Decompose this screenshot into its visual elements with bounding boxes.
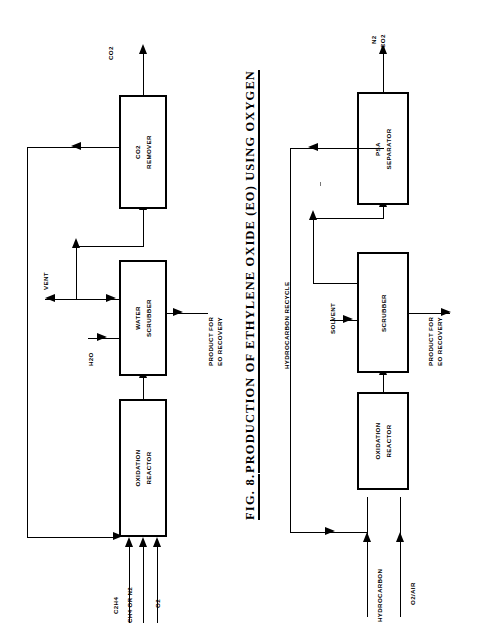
co2-outlet-line [143,52,144,96]
air-recycle-return-arrow [113,532,123,540]
h2o-label: H2O [87,352,95,366]
reactor-to-scrubber-line [143,376,144,400]
figure-title: PRODUCTION OF ETHYLENE OXIDE (EO) USING … [243,70,260,473]
o2-recycle-loop-arrow [308,143,318,151]
figure-number: FIG. 8. [243,474,260,520]
feed-line-o2 [157,545,158,623]
solvent-label: SOLVENT [329,303,337,334]
figure-page: OXIDATION REACTOR C2H4 CH4 OR N2 O2 WATE… [0,0,478,636]
o2-oxidation-reactor-label: OXIDATION REACTOR [372,422,394,459]
scrubber-overhead-riser [313,218,314,284]
scrubber-overhead-crossover [313,218,383,219]
scrubber-overhead-out [313,283,358,284]
o2-recycle-return-arrow [325,527,335,535]
figure-number-caption: FIG. 8. [240,474,258,520]
o2-recycle-label: HYDROCARBON RECYCLE [283,282,291,369]
vent-arrow [45,294,55,302]
feed-label-ch4-n2: CH4 OR N2 [126,587,134,623]
o2-product-arrow [441,308,451,316]
product-label-line1: PRODUCT FOR [427,317,434,366]
unit-label-line1: OXIDATION [134,449,141,486]
air-recycle-return-line [70,537,118,538]
unit-label-line2: REMOVER [145,135,152,169]
unit-label-line1: WATER [134,306,141,330]
feed-line-o2-air [400,497,401,617]
co2-outlet-label: CO2 [107,46,115,60]
feed-arrow-ch4-n2 [139,537,147,547]
feed-arrow-o2-air [396,532,404,542]
scan-artifact [320,182,321,186]
feed-label-c2h4: C2H4 [112,597,120,614]
air-recycle-loop-arrow [71,142,81,150]
psa-inlet-line [383,205,384,219]
feed-line-ch4-n2 [143,545,144,623]
co2-outlet-arrow [139,44,147,54]
feed-arrow-o2 [153,537,161,547]
product-label-line2: EO RECOVERY [216,317,223,366]
unit-label-line2: REACTOR [145,452,152,485]
feed-label-o2: O2 [154,599,162,608]
product-label-line1: PRODUCT FOR [207,317,214,366]
o2-scrubber-label: SCRUBBER [378,294,389,332]
psa-vent-line [383,52,384,93]
feed-label-hydrocarbon: HYDROCARBON [376,569,384,622]
feed-arrow-c2h4 [125,537,133,547]
co2-remover-box: CO2 REMOVER [119,95,167,209]
vent-label: VENT [42,272,50,290]
feed-arrow-hydrocarbon [363,532,371,542]
solvent-feed-arrow [343,315,353,323]
scrubber-overhead-arrow [106,294,116,302]
air-oxidation-reactor-box: OXIDATION REACTOR [119,399,167,537]
unit-label-line2: SCRUBBER [145,299,152,337]
unit-label-line2: SEPARATOR [385,128,392,169]
air-product-label: PRODUCT FOR EO RECOVERY [207,317,224,366]
air-recycle-loop-vertical [27,147,28,538]
co2-remover-label: CO2 REMOVER [132,135,154,169]
unit-label-line2: SCRUBBER [380,294,387,332]
o2-scrubber-box: SCRUBBER [357,252,409,373]
product-label-line2: EO RECOVERY [436,317,443,366]
air-oxidation-reactor-label: OXIDATION REACTOR [132,449,154,486]
air-product-arrow [173,308,183,316]
unit-label-line2: REACTOR [385,425,392,458]
feed-line-hydrocarbon [367,497,368,617]
overhead-to-co2-horizontal [76,246,143,247]
figure-title-caption: PRODUCTION OF ETHYLENE OXIDE (EO) USING … [240,70,258,473]
co2-remover-inlet-line [143,208,144,247]
psa-vent-label-co2: CO2 [379,34,387,48]
unit-label-line1: OXIDATION [374,422,381,459]
psa-vent-label-n2: N2 [370,35,378,44]
overhead-to-co2-vertical [76,246,77,300]
h2o-feed-arrow [97,333,107,341]
water-scrubber-label: WATER SCRUBBER [132,299,154,337]
water-scrubber-box: WATER SCRUBBER [119,260,167,376]
feed-label-o2-air: O2/AIR [409,582,417,605]
psa-recycle-offtake [352,148,384,149]
air-recycle-loop-bottom [27,537,71,538]
o2-product-label: PRODUCT FOR EO RECOVERY [427,317,444,366]
o2-recycle-loop-top [290,148,358,149]
unit-label-line1: CO2 [134,145,141,159]
o2-reactor-to-scrubber-line [383,373,384,393]
o2-oxidation-reactor-box: OXIDATION REACTOR [357,392,409,490]
